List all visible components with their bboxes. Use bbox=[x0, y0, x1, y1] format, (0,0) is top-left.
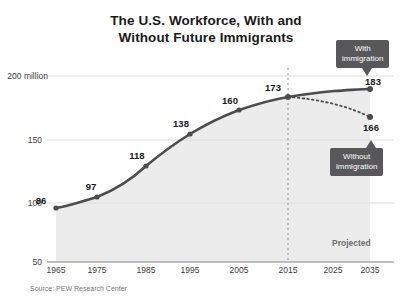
callout-without-immigration: Without immigration bbox=[330, 148, 383, 176]
callout-with-line-2: immigration bbox=[342, 54, 383, 64]
x-tick-label-2005: 2005 bbox=[217, 265, 261, 275]
callout-with-line-1: With bbox=[342, 44, 383, 54]
data-point-1985 bbox=[143, 163, 148, 168]
projected-annotation: Projected bbox=[332, 238, 371, 248]
x-tick-label-1985: 1985 bbox=[124, 265, 168, 275]
value-label-2015: 173 bbox=[258, 82, 288, 93]
x-tick-label-1975: 1975 bbox=[75, 265, 119, 275]
data-point-1975 bbox=[94, 194, 99, 199]
value-label-2035-with: 183 bbox=[358, 76, 388, 87]
value-label-2005: 160 bbox=[215, 95, 245, 106]
data-point-1965 bbox=[53, 205, 58, 210]
callout-without-line-1: Without bbox=[336, 152, 377, 162]
area-fill bbox=[56, 89, 370, 262]
x-tick-label-2015: 2015 bbox=[266, 265, 310, 275]
value-label-2035-without: 166 bbox=[356, 122, 386, 133]
value-label-1975: 97 bbox=[76, 181, 106, 192]
value-label-1965: 86 bbox=[26, 195, 56, 206]
data-point-2035-without bbox=[367, 114, 373, 120]
y-tick-label-200: 200 million bbox=[4, 71, 48, 81]
x-tick-label-2035: 2035 bbox=[348, 265, 392, 275]
data-point-1995 bbox=[187, 131, 192, 136]
callout-with-immigration-tail bbox=[362, 68, 372, 76]
source-note: Source: PEW Research Center bbox=[30, 285, 127, 292]
callout-without-line-2: immigration bbox=[336, 162, 377, 172]
x-tick-label-1995: 1995 bbox=[168, 265, 212, 275]
callout-without-immigration-tail bbox=[366, 140, 376, 148]
data-point-2005 bbox=[236, 107, 241, 112]
value-label-1985: 118 bbox=[122, 150, 152, 161]
chart-page: The U.S. Workforce, With and Without Fut… bbox=[0, 0, 412, 303]
value-label-1995: 138 bbox=[166, 118, 196, 129]
data-point-2015 bbox=[285, 94, 291, 100]
y-tick-label-150: 150 bbox=[4, 135, 42, 145]
callout-with-immigration: With immigration bbox=[336, 40, 389, 68]
x-tick-label-1965: 1965 bbox=[34, 265, 78, 275]
